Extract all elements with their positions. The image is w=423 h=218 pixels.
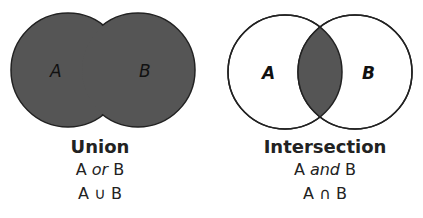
intersection-notation: A ∩ B — [260, 186, 390, 202]
union-label-b: B — [139, 61, 151, 81]
union-label-a: A — [49, 61, 62, 81]
union-notation: A ∪ B — [40, 186, 160, 202]
union-phrase: A or B — [40, 162, 160, 178]
intersection-diagram — [228, 15, 412, 129]
intersection-phrase: A and B — [260, 162, 390, 178]
intersection-label-b: B — [362, 63, 375, 83]
union-diagram — [11, 13, 195, 127]
intersection-title: Intersection — [260, 138, 390, 156]
intersection-label-a: A — [260, 63, 275, 83]
union-title: Union — [40, 138, 160, 156]
